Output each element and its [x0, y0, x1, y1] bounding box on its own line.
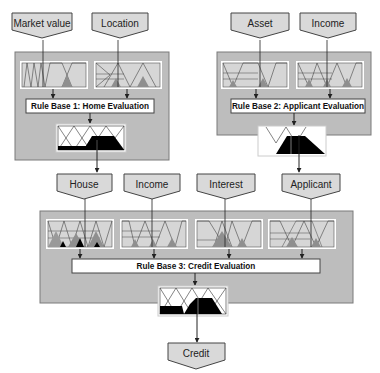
mf-chart-asset	[221, 40, 289, 89]
mf-chart-income	[120, 199, 188, 249]
output-chart-credit	[158, 286, 228, 316]
output-chart-applicant	[258, 126, 326, 156]
output-chart-home	[56, 124, 126, 152]
svg-text:Rule Base 3: Credit Evaluation: Rule Base 3: Credit Evaluation	[137, 262, 256, 271]
node-applicant: Applicant	[282, 174, 340, 199]
output-credit: Credit	[168, 343, 225, 369]
svg-text:Rule Base 1: Home Evaluation: Rule Base 1: Home Evaluation	[31, 102, 149, 111]
mf-chart-applicant	[268, 199, 336, 249]
mf-chart-house	[46, 199, 114, 249]
node-income: Income	[124, 174, 180, 199]
svg-text:Market value: Market value	[13, 18, 71, 29]
svg-text:Interest: Interest	[209, 179, 243, 190]
svg-text:Applicant: Applicant	[290, 179, 331, 190]
svg-text:Credit: Credit	[183, 348, 210, 359]
svg-text:House: House	[70, 179, 99, 190]
input-income: Income	[300, 13, 356, 38]
mf-chart-income-top	[296, 40, 364, 89]
mf-chart-interest	[195, 199, 263, 249]
rule-base-2-box: Rule Base 2: Applicant Evaluation	[231, 99, 365, 113]
svg-text:Location: Location	[101, 18, 139, 29]
svg-text:Income: Income	[136, 179, 169, 190]
rule-base-3-box: Rule Base 3: Credit Evaluation	[72, 259, 320, 273]
mf-chart-location	[94, 40, 162, 89]
svg-text:Income: Income	[312, 18, 345, 29]
mf-chart-market-value	[20, 40, 88, 89]
svg-text:Asset: Asset	[247, 18, 272, 29]
svg-text:Rule Base 2: Applicant Evaluat: Rule Base 2: Applicant Evaluation	[232, 102, 364, 111]
node-house: House	[57, 174, 112, 199]
input-asset: Asset	[231, 13, 289, 38]
rule-base-1-box: Rule Base 1: Home Evaluation	[26, 99, 154, 113]
input-location: Location	[92, 13, 148, 38]
node-interest: Interest	[197, 174, 255, 199]
fuzzy-credit-diagram: Market value Location Asset Income Rule …	[0, 0, 380, 373]
input-market-value: Market value	[12, 13, 72, 38]
